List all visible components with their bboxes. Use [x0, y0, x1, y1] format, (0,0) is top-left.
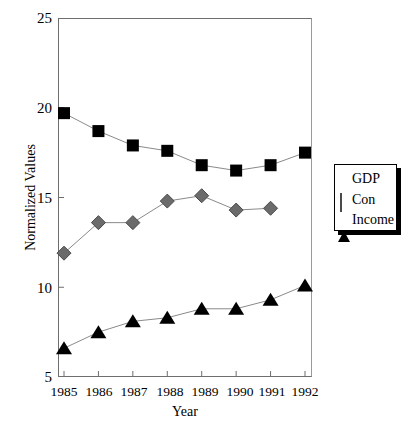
- legend-label-con: Con: [352, 193, 375, 207]
- chart-page: 25 20 15 10 5 1985 1986 1987 1988 1989 1…: [0, 0, 403, 429]
- legend-item-income[interactable]: Income: [338, 210, 394, 230]
- diamond-marker-icon: [338, 194, 351, 207]
- triangle-marker-icon: [338, 214, 351, 227]
- square-marker-icon: [338, 173, 351, 186]
- legend-item-gdp[interactable]: GDP: [338, 169, 380, 189]
- chart-legend: GDP Con Income: [334, 164, 397, 231]
- legend-item-con[interactable]: Con: [338, 190, 375, 210]
- legend-box: GDP Con Income: [334, 164, 397, 231]
- legend-label-income: Income: [352, 213, 394, 227]
- legend-label-gdp: GDP: [352, 172, 380, 186]
